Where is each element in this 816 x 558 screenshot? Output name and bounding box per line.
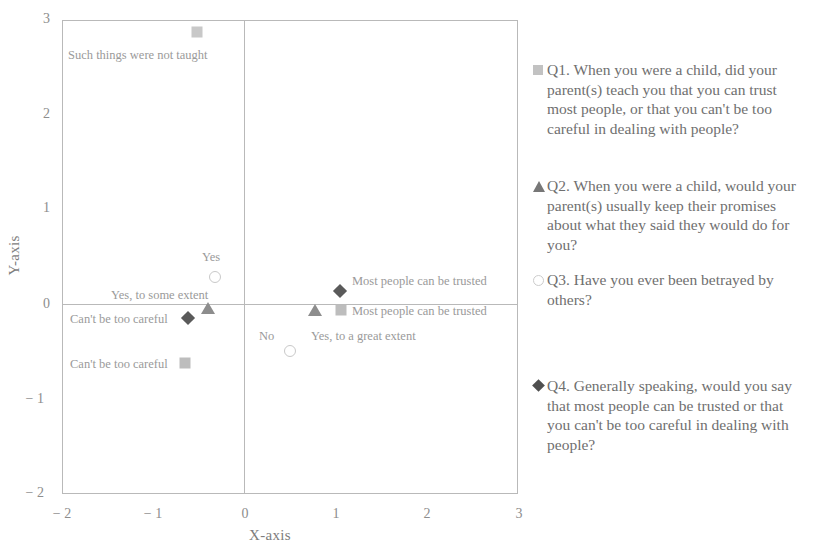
- x-tick-neg1: − 1: [133, 506, 173, 522]
- x-tick-0: 0: [225, 506, 265, 522]
- x-tick-neg2: − 2: [42, 506, 82, 522]
- legend-item-q2: Q2. When you were a child, would your pa…: [533, 176, 808, 254]
- y-tick-1: 1: [16, 200, 50, 216]
- point-label-q2-great-extent: Yes, to a great extent: [311, 329, 416, 344]
- x-tick-2: 2: [407, 506, 447, 522]
- legend-square-icon: [533, 65, 547, 75]
- point-label-q2-some-extent: Yes, to some extent: [111, 288, 208, 303]
- y-tick-neg1: − 1: [10, 391, 44, 407]
- legend-triangle-icon: [533, 181, 547, 192]
- legend: Q1. When you were a child, did your pare…: [533, 0, 816, 558]
- point-label-q1-not-taught: Such things were not taught: [68, 48, 208, 63]
- x-tick-1: 1: [316, 506, 356, 522]
- point-q2-yes-to-some-extent: [201, 302, 215, 314]
- y-tick-0: 0: [16, 296, 50, 312]
- legend-diamond-icon: [533, 381, 547, 390]
- point-q1-most-people-trusted: [336, 305, 347, 316]
- y-axis-title: Y-axis: [6, 216, 23, 296]
- point-q2-yes-to-great-extent: [308, 304, 322, 316]
- point-label-q4-trusted: Most people can be trusted: [352, 274, 487, 289]
- legend-label-q2: Q2. When you were a child, would your pa…: [547, 176, 808, 254]
- plot-area: 3 2 1 0 − 1 − 2 − 2 − 1 0 1 2 3 X-axis Y…: [0, 0, 540, 558]
- point-label-q3-no: No: [259, 329, 274, 344]
- point-label-q3-yes: Yes: [202, 250, 220, 265]
- point-q3-yes: [209, 271, 221, 283]
- y-tick-2: 2: [16, 106, 50, 122]
- legend-item-q3: Q3. Have you ever been betrayed by other…: [533, 270, 808, 309]
- legend-label-q1: Q1. When you were a child, did your pare…: [547, 60, 808, 138]
- point-label-q1-trusted: Most people can be trusted: [352, 304, 487, 319]
- scatter-plot-figure: 3 2 1 0 − 1 − 2 − 2 − 1 0 1 2 3 X-axis Y…: [0, 0, 816, 558]
- y-tick-neg2: − 2: [10, 485, 44, 501]
- plot-frame: [62, 20, 518, 494]
- point-label-q4-careful: Can't be too careful: [70, 312, 168, 327]
- x-axis-title: X-axis: [0, 527, 540, 544]
- legend-item-q1: Q1. When you were a child, did your pare…: [533, 60, 808, 138]
- legend-label-q3: Q3. Have you ever been betrayed by other…: [547, 270, 808, 309]
- y-tick-3: 3: [16, 11, 50, 27]
- legend-circle-icon: [533, 275, 547, 286]
- legend-label-q4: Q4. Generally speaking, would you say th…: [547, 376, 808, 454]
- point-label-q1-careful: Can't be too careful: [70, 357, 168, 372]
- y-zero-axis-line: [244, 20, 245, 494]
- legend-item-q4: Q4. Generally speaking, would you say th…: [533, 376, 808, 454]
- point-q3-no: [284, 345, 296, 357]
- point-q1-such-things-not-taught: [192, 27, 203, 38]
- point-q1-cant-be-too-careful: [180, 358, 191, 369]
